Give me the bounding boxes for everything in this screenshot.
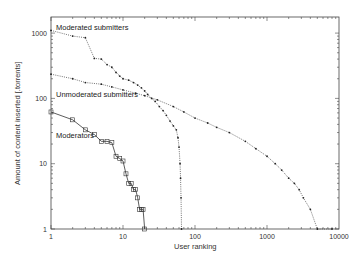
y-tick-label: 1 — [43, 226, 47, 233]
x-tick-label: 1 — [49, 233, 53, 240]
series-label-unmoderated: Unmoderated submitters — [56, 90, 138, 99]
x-tick-label: 1000 — [259, 233, 275, 240]
x-tick-label: 10000 — [329, 233, 349, 240]
y-axis-label: Amount of content inserted [.torrents] — [13, 62, 22, 185]
plot-frame — [51, 17, 339, 229]
y-tick-label: 1000 — [31, 30, 47, 37]
series-label-moderated: Moderated submitters — [56, 23, 129, 32]
series-moderators — [49, 110, 147, 231]
x-tick-label: 100 — [189, 233, 201, 240]
x-axis-label: User ranking — [174, 242, 217, 251]
axis-ticks: 1101001000100001101001000 — [31, 17, 348, 240]
chart-canvas: 1101001000100001101001000 Moderated subm… — [0, 0, 363, 261]
x-tick-label: 10 — [119, 233, 127, 240]
y-tick-label: 10 — [39, 160, 47, 167]
y-tick-label: 100 — [35, 95, 47, 102]
series-moderated-submitters — [50, 29, 182, 229]
series-label-moderators: Moderators — [56, 131, 94, 140]
chart-figure: 1101001000100001101001000 Moderated subm… — [0, 0, 363, 261]
